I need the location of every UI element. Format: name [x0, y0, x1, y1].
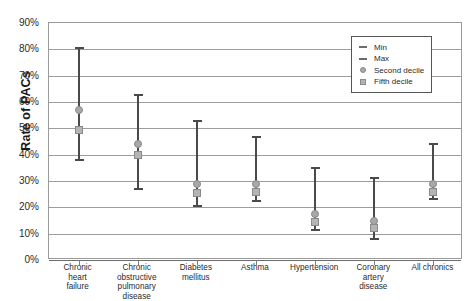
legend-item: Fifth decile [357, 76, 424, 87]
x-axis-label-line: disease [342, 282, 404, 292]
y-axis-tick-label: 10% [19, 227, 39, 238]
x-axis-category-label: All chronics [401, 263, 463, 273]
x-axis-label-line: mellitus [165, 273, 227, 283]
x-axis-label-line: failure [47, 282, 109, 292]
legend-item-label: Fifth decile [374, 77, 413, 86]
x-axis-category-label: Coronaryarterydisease [342, 263, 404, 292]
y-axis-tick-label: 40% [19, 148, 39, 159]
x-axis-category-label: Asthma [224, 263, 286, 273]
legend-item: Min [357, 42, 424, 53]
square-marker-icon-glyph [360, 79, 366, 85]
x-axis-category-labels: ChronicheartfailureChronicobstructivepul… [48, 263, 462, 294]
fifth-decile-marker [311, 218, 319, 226]
x-axis-label-line: obstructive [106, 273, 168, 283]
second-decile-marker [75, 106, 83, 114]
x-axis-label-line: Diabetes [165, 263, 227, 273]
max-cap-marker [311, 167, 320, 169]
dash-icon [357, 58, 369, 60]
x-axis-label-line: Chronic [106, 263, 168, 273]
min-cap-marker [75, 159, 84, 161]
whisker-range-line [78, 47, 80, 160]
circle-marker-icon [357, 67, 369, 73]
chart-legend: MinMaxSecond decileFifth decile [351, 36, 432, 93]
min-cap-marker [252, 200, 261, 202]
y-axis-tick-label: 50% [19, 122, 39, 133]
max-cap-marker [252, 136, 261, 138]
fifth-decile-marker [252, 188, 260, 196]
legend-item-label: Max [374, 54, 389, 63]
max-cap-marker [370, 177, 379, 179]
second-decile-marker [252, 180, 260, 188]
x-axis-label-line: Coronary [342, 263, 404, 273]
second-decile-marker [429, 180, 437, 188]
fifth-decile-marker [134, 151, 142, 159]
min-cap-marker [370, 238, 379, 240]
legend-item-label: Min [374, 43, 387, 52]
gridline [49, 234, 461, 235]
gridline [49, 128, 461, 129]
x-axis-category-label: Chronicobstructivepulmonarydisease [106, 263, 168, 301]
x-axis-category-label: Diabetesmellitus [165, 263, 227, 282]
y-axis-tick-label: 60% [19, 96, 39, 107]
min-cap-marker [429, 198, 438, 200]
max-cap-marker [429, 143, 438, 145]
gridline [49, 102, 461, 103]
x-axis-category-label: Hypertension [283, 263, 345, 273]
x-axis-label-line: Asthma [224, 263, 286, 273]
square-marker-icon [357, 79, 369, 85]
y-axis-tick-label: 80% [19, 43, 39, 54]
x-axis-category-label: Chronicheartfailure [47, 263, 109, 292]
x-axis-label-line: Hypertension [283, 263, 345, 273]
x-axis-label-line: heart [47, 273, 109, 283]
x-axis-label-line: All chronics [401, 263, 463, 273]
y-axis-tick-label: 30% [19, 175, 39, 186]
max-cap-marker [193, 120, 202, 122]
legend-item: Max [357, 53, 424, 64]
second-decile-marker [193, 180, 201, 188]
second-decile-marker [370, 217, 378, 225]
fifth-decile-marker [75, 126, 83, 134]
circle-marker-icon-glyph [360, 67, 366, 73]
dash-icon-glyph [359, 46, 367, 48]
y-axis-tick-label: 70% [19, 69, 39, 80]
x-axis-label-line: artery [342, 273, 404, 283]
min-cap-marker [193, 205, 202, 207]
y-axis-tick-label: 0% [25, 254, 39, 265]
second-decile-marker [134, 140, 142, 148]
min-cap-marker [311, 229, 320, 231]
min-cap-marker [134, 188, 143, 190]
max-cap-marker [75, 47, 84, 49]
x-axis-label-line: pulmonary [106, 282, 168, 292]
fifth-decile-marker [370, 224, 378, 232]
x-axis-label-line: disease [106, 292, 168, 301]
x-axis-label-line: Chronic [47, 263, 109, 273]
y-axis-tick-label: 90% [19, 17, 39, 28]
fifth-decile-marker [193, 189, 201, 197]
max-cap-marker [134, 94, 143, 96]
legend-item: Second decile [357, 65, 424, 76]
gridline [49, 260, 461, 261]
dash-icon [357, 46, 369, 48]
fifth-decile-marker [429, 188, 437, 196]
y-axis-tick-labels: 90%80%70%60%50%40%30%20%10%0% [0, 0, 44, 294]
dash-icon-glyph [359, 58, 367, 60]
gridline [49, 207, 461, 208]
second-decile-marker [311, 210, 319, 218]
y-axis-tick-label: 20% [19, 201, 39, 212]
legend-item-label: Second decile [374, 66, 424, 75]
